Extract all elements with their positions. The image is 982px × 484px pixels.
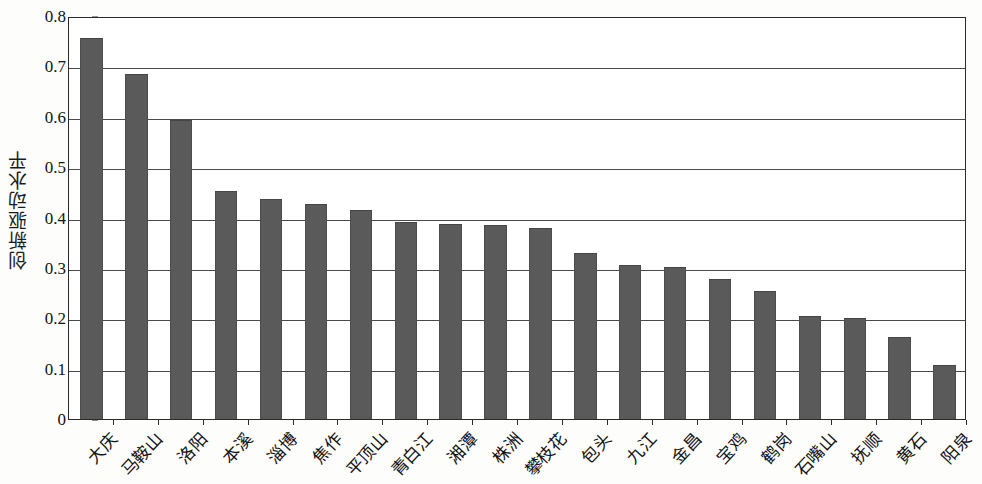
x-tick-mark	[472, 420, 473, 425]
y-tick-label: 0.4	[45, 209, 66, 229]
x-tick-label: 本溪	[216, 426, 257, 468]
x-tick-mark	[158, 420, 159, 425]
x-tick-label: 九江	[620, 426, 661, 468]
bar	[170, 120, 192, 419]
x-tick-mark	[697, 420, 698, 425]
x-tick-label: 湘潭	[440, 426, 481, 468]
x-tick-label: 包头	[575, 426, 616, 468]
y-axis-tick-labels: 00.10.20.30.40.50.60.70.8	[30, 0, 66, 440]
y-tick-label: 0.6	[45, 108, 66, 128]
x-tick-mark	[966, 420, 967, 425]
x-tick-mark	[607, 420, 608, 425]
bar	[709, 279, 731, 419]
bar	[395, 222, 417, 419]
x-tick-mark	[248, 420, 249, 425]
x-tick-label: 石嘴山	[788, 426, 841, 480]
bar-chart-figure: 创新驱动水平 00.10.20.30.40.50.60.70.8 大庆马鞍山洛阳…	[0, 0, 982, 484]
x-tick-mark	[203, 420, 204, 425]
x-tick-mark	[562, 420, 563, 425]
x-tick-label: 马鞍山	[115, 426, 168, 480]
y-tick-label: 0.3	[45, 259, 66, 279]
x-tick-label: 青白江	[384, 426, 437, 480]
bar	[888, 337, 910, 419]
bar	[215, 191, 237, 419]
bar	[80, 38, 102, 419]
x-tick-mark	[876, 420, 877, 425]
bar	[799, 316, 821, 419]
bar	[125, 74, 147, 419]
bar	[664, 267, 686, 419]
x-tick-label: 平顶山	[339, 426, 392, 480]
x-tick-mark	[831, 420, 832, 425]
x-tick-mark	[742, 420, 743, 425]
y-tick-label: 0.2	[45, 309, 66, 329]
y-tick-label: 0	[58, 410, 67, 430]
x-tick-mark	[113, 420, 114, 425]
x-tick-label: 洛阳	[171, 426, 212, 468]
x-tick-mark	[517, 420, 518, 425]
y-tick-label: 0.1	[45, 360, 66, 380]
bars-layer	[69, 18, 965, 419]
bar	[305, 204, 327, 419]
y-tick-label: 0.8	[45, 7, 66, 27]
x-tick-label: 攀枝花	[519, 426, 572, 480]
bar	[439, 224, 461, 419]
bar	[619, 265, 641, 419]
bar	[529, 228, 551, 419]
x-tick-label: 淄博	[261, 426, 302, 468]
bar	[933, 365, 955, 419]
x-axis-tick-labels: 大庆马鞍山洛阳本溪淄博焦作平顶山青白江湘潭株洲攀枝花包头九江金昌宝鸡鹤岗石嘴山抚…	[68, 420, 966, 484]
bar	[844, 318, 866, 419]
bar	[350, 210, 372, 419]
y-axis-title: 创新驱动水平	[2, 0, 32, 420]
x-tick-mark	[337, 420, 338, 425]
x-tick-label: 抚顺	[845, 426, 886, 468]
y-tick-label: 0.7	[45, 57, 66, 77]
x-tick-mark	[786, 420, 787, 425]
x-tick-label: 金昌	[665, 426, 706, 468]
x-tick-mark	[293, 420, 294, 425]
x-tick-mark	[427, 420, 428, 425]
y-tick-label: 0.5	[45, 158, 66, 178]
bar	[754, 291, 776, 419]
x-tick-mark	[921, 420, 922, 425]
bar	[260, 199, 282, 419]
y-axis-title-label: 创新驱动水平	[4, 150, 31, 270]
bar	[574, 253, 596, 419]
x-tick-mark	[382, 420, 383, 425]
plot-area	[68, 17, 966, 420]
x-tick-label: 宝鸡	[710, 426, 751, 468]
x-tick-mark	[652, 420, 653, 425]
x-tick-label: 黄石	[889, 426, 930, 468]
x-tick-label: 阳泉	[934, 426, 975, 468]
bar	[484, 225, 506, 419]
